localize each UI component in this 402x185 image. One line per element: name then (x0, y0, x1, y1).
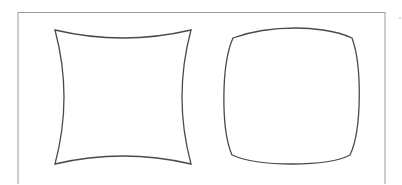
diagram-frame (18, 13, 385, 185)
barrel-square-shape (224, 28, 359, 164)
distortion-diagram (0, 0, 402, 184)
pincushion-square-shape (55, 30, 191, 164)
